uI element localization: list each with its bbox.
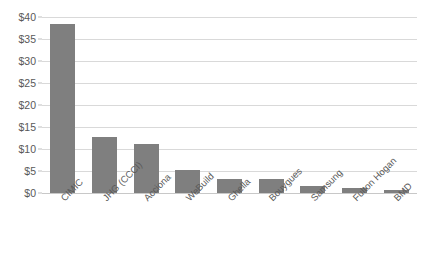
bar: [50, 24, 75, 193]
y-axis-tick-label: $5: [0, 166, 36, 177]
y-axis-tick-label: $20: [0, 100, 36, 111]
y-axis: $0$5$10$15$20$25$30$35$40: [0, 17, 36, 193]
bars-layer: [42, 17, 417, 193]
x-axis: CIMICJHG (CCCI)AccionaWeBuildGhellaBouyg…: [42, 196, 417, 255]
y-axis-tick-label: $40: [0, 12, 36, 23]
bar-chart: $0$5$10$15$20$25$30$35$40 CIMICJHG (CCCI…: [0, 0, 433, 255]
y-axis-tick-label: $30: [0, 56, 36, 67]
y-axis-tick-label: $15: [0, 122, 36, 133]
y-axis-tick-label: $35: [0, 34, 36, 45]
y-axis-tick-label: $25: [0, 78, 36, 89]
y-axis-tick-label: $10: [0, 144, 36, 155]
y-axis-tick-label: $0: [0, 188, 36, 199]
